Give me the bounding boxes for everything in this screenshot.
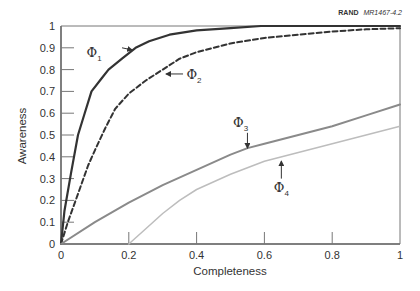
y-tick-label: 0.7	[40, 85, 55, 97]
y-tick-label: 0.1	[40, 216, 55, 228]
y-tick-label: 1	[49, 20, 55, 32]
y-tick-label: 0.3	[40, 173, 55, 185]
series-label-1: Φ1	[87, 45, 103, 63]
y-axis-title: Awareness	[16, 107, 28, 164]
y-tick-label: 0.4	[40, 151, 55, 163]
series-label-2: Φ2	[186, 67, 202, 85]
y-tick-label: 0.9	[40, 42, 55, 54]
series-annotations: Φ1Φ2Φ3Φ4	[87, 45, 290, 198]
y-axis-ticks: 00.10.20.30.40.50.60.70.80.91	[40, 20, 74, 250]
x-axis-title: Completeness	[193, 265, 267, 277]
y-tick-label: 0.6	[40, 107, 55, 119]
credit-org: RAND	[338, 9, 358, 16]
series-label-3: Φ3	[233, 115, 249, 133]
x-tick-label: 0.2	[121, 249, 136, 261]
y-tick-label: 0.5	[40, 129, 55, 141]
series-lines	[61, 26, 400, 244]
y-tick-label: 0.8	[40, 64, 55, 76]
x-tick-label: 0.4	[189, 249, 204, 261]
chart: RAND MR1467-4.2 00.10.20.30.40.50.60.70.…	[0, 0, 420, 291]
annotation-arrow-1	[122, 48, 132, 50]
x-tick-label: 0.8	[325, 249, 340, 261]
x-axis-ticks: 00.20.40.60.81	[58, 232, 403, 261]
series-label-4: Φ4	[274, 180, 290, 198]
credit-label: RAND MR1467-4.2	[338, 9, 402, 16]
x-tick-label: 1	[397, 249, 403, 261]
y-tick-label: 0.2	[40, 194, 55, 206]
x-tick-label: 0.6	[257, 249, 272, 261]
credit-report-id: MR1467-4.2	[363, 9, 402, 16]
x-tick-label: 0	[58, 249, 64, 261]
y-tick-label: 0	[49, 238, 55, 250]
